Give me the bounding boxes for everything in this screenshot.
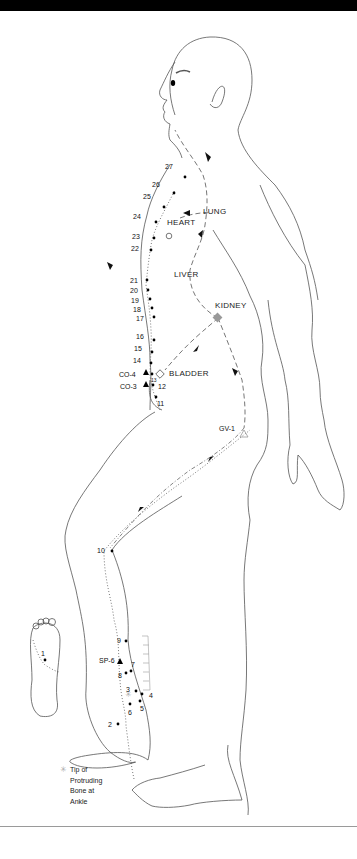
label-sp6: SP-6	[99, 657, 115, 664]
point-label-27: 27	[165, 163, 173, 170]
eye	[171, 80, 175, 86]
point-label-3: 3	[126, 686, 130, 693]
arm-outline	[260, 185, 344, 510]
ear	[210, 86, 225, 107]
legend-line: Protruding	[70, 776, 130, 787]
point-label-7: 7	[131, 661, 135, 668]
sp6-marker	[117, 658, 123, 664]
point-label-4: 4	[149, 692, 153, 699]
body-meridian-diagram: ✳	[0, 0, 357, 859]
point-label-17: 17	[136, 315, 144, 322]
point-label-12: 12	[158, 383, 166, 390]
head-outline	[170, 37, 318, 300]
flow-arrows	[107, 152, 238, 512]
legend: ✳ Tip of Protruding Bone at Ankle	[70, 765, 130, 807]
organ-label-lung: LUNG	[203, 208, 226, 216]
organ-label-heart: HEART	[167, 219, 195, 227]
kidney-meridian-line	[104, 430, 250, 779]
kidney-marker	[213, 313, 223, 323]
point-label-9: 9	[117, 637, 121, 644]
point-label-20: 20	[130, 287, 138, 294]
point-label-10: 10	[97, 547, 105, 554]
point-label-22: 22	[131, 245, 139, 252]
point-1	[44, 659, 47, 662]
legend-line: Bone at	[70, 786, 130, 797]
label-co4: CO-4	[119, 371, 136, 378]
point-label-8: 8	[118, 672, 122, 679]
kidney-to-bladder-path	[165, 318, 218, 370]
point-label-6: 6	[128, 709, 132, 716]
point-label-26: 26	[152, 181, 160, 188]
organ-label-kidney: KIDNEY	[215, 302, 247, 310]
heart-marker	[166, 233, 172, 239]
point-label-18: 18	[133, 306, 141, 313]
kidney-downward-path	[218, 318, 245, 428]
eyebrow	[176, 71, 190, 73]
ankle-star-icon: ✳	[60, 765, 67, 776]
raised-leg-inner	[112, 496, 182, 760]
point-label-16: 16	[136, 333, 144, 340]
label-co3: CO-3	[120, 383, 137, 390]
co3-marker	[143, 381, 149, 387]
point-label-21: 21	[130, 277, 138, 284]
point-label-24: 24	[133, 213, 141, 220]
bottom-divider	[0, 826, 357, 827]
point-label-19: 19	[131, 297, 139, 304]
point-label-25: 25	[143, 193, 151, 200]
gv1-marker	[240, 430, 248, 437]
point-label-2: 2	[108, 721, 112, 728]
standing-foot-outline	[132, 745, 242, 807]
co4-marker	[143, 369, 149, 375]
toe	[33, 623, 39, 629]
ankle-measure-scale	[142, 636, 150, 690]
organ-label-liver: LIVER	[174, 271, 199, 279]
point-label-13: 13	[151, 378, 157, 383]
point-label-23: 23	[132, 233, 140, 240]
point-label-11: 11	[157, 400, 164, 407]
legend-line: Ankle	[70, 797, 130, 808]
gv1-path	[110, 428, 244, 548]
label-gv1: GV-1	[219, 425, 235, 432]
point-label-1: 1	[41, 650, 45, 657]
sole-outline	[30, 623, 60, 717]
organ-label-bladder: BLADDER	[169, 370, 209, 378]
point-label-14: 14	[133, 357, 141, 364]
legend-line: Tip of	[70, 765, 130, 776]
point-label-15: 15	[134, 345, 142, 352]
bladder-marker	[156, 370, 164, 378]
point-label-5: 5	[140, 705, 144, 712]
